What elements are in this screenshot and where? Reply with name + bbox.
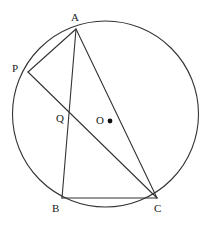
vertex-label-p: P bbox=[12, 63, 18, 74]
segment-PC bbox=[28, 72, 157, 198]
vertex-label-o: O bbox=[96, 115, 104, 126]
geometry-figure: A P Q O B C bbox=[0, 0, 215, 230]
segment-AC bbox=[76, 29, 157, 198]
vertex-label-a: A bbox=[71, 12, 79, 23]
vertex-label-q: Q bbox=[56, 113, 64, 124]
segment-AB bbox=[62, 29, 76, 198]
segment-AP bbox=[28, 29, 76, 72]
geometry-canvas bbox=[0, 0, 215, 230]
vertex-label-b: B bbox=[52, 203, 59, 214]
circumscribed-circle bbox=[13, 21, 199, 207]
center-point-marker bbox=[108, 119, 113, 124]
vertex-label-c: C bbox=[154, 203, 161, 214]
